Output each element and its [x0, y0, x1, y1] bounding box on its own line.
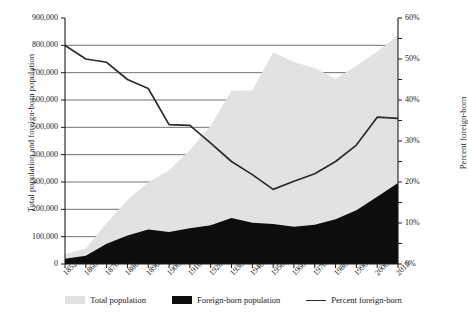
right-tick-label: 10% [405, 218, 420, 227]
legend-label-foreign-born: Foreign-born population [197, 295, 280, 305]
left-tick-label: 300,000 [0, 177, 58, 186]
left-tick-label: 900,000 [0, 13, 58, 22]
legend-item-total: Total population [65, 295, 146, 305]
chart-legend: Total population Foreign-born population… [0, 295, 467, 305]
left-tick-label: 200,000 [0, 204, 58, 213]
left-tick-marks [61, 18, 65, 264]
percent-line-swatch-icon [306, 300, 326, 301]
right-tick-marks [398, 18, 402, 264]
legend-item-foreign-born: Foreign-born population [172, 295, 280, 305]
left-tick-label: 500,000 [0, 122, 58, 131]
legend-label-percent: Percent foreign-born [331, 295, 402, 305]
left-tick-label: 0 [0, 259, 58, 268]
left-tick-label: 100,000 [0, 232, 58, 241]
right-tick-label: 60% [405, 13, 420, 22]
foreign-born-swatch-icon [172, 296, 192, 304]
legend-label-total: Total population [90, 295, 146, 305]
left-tick-label: 400,000 [0, 150, 58, 159]
left-tick-label: 600,000 [0, 95, 58, 104]
right-tick-label: 20% [405, 177, 420, 186]
left-tick-label: 800,000 [0, 40, 58, 49]
left-tick-label: 700,000 [0, 68, 58, 77]
right-tick-label: 40% [405, 95, 420, 104]
total-population-swatch-icon [65, 296, 85, 304]
legend-item-percent: Percent foreign-born [306, 295, 402, 305]
right-tick-label: 50% [405, 54, 420, 63]
right-tick-label: 30% [405, 136, 420, 145]
